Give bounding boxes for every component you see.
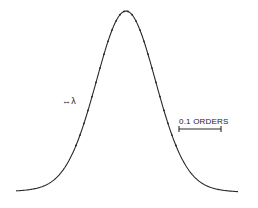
scale-bar: [179, 126, 221, 132]
chart-canvas: [0, 0, 258, 208]
data-point-markers: [75, 11, 177, 147]
line-profile-chart: ↔λ 0.1 ORDERS: [0, 0, 258, 208]
scale-bar-label: 0.1 ORDERS: [179, 117, 229, 126]
wavelength-direction-label: ↔λ: [62, 96, 76, 106]
profile-curve: [16, 11, 238, 192]
